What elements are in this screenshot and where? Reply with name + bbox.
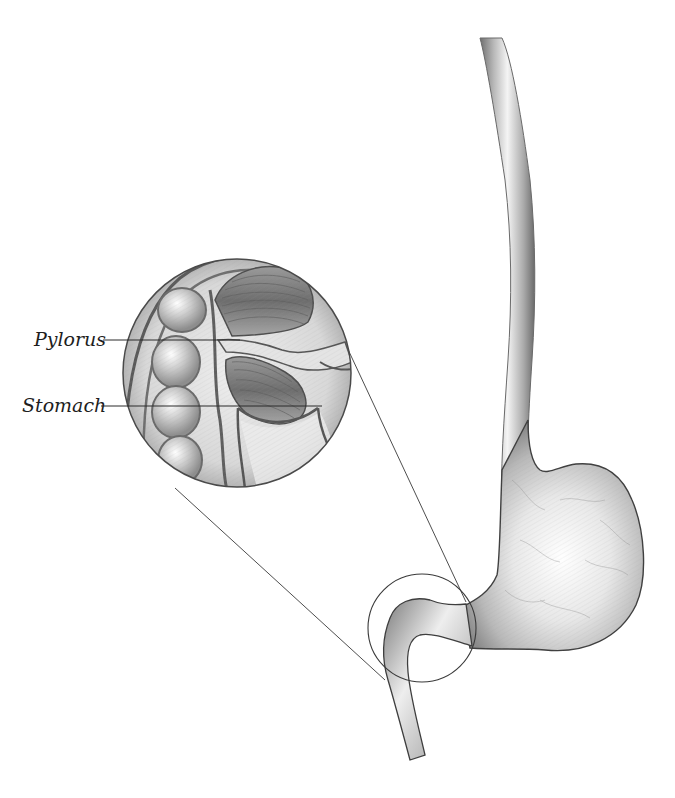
magnified-view (110, 255, 370, 515)
duodenum (384, 599, 472, 760)
clipped-caption (0, 0, 675, 4)
label-pylorus: Pylorus (34, 330, 106, 349)
label-stomach: Stomach (22, 396, 106, 415)
connector-line-upper (345, 343, 466, 602)
anatomy-figure: Pylorus Stomach (0, 0, 675, 798)
connector-line-lower (175, 488, 385, 680)
stomach-body (462, 420, 644, 651)
